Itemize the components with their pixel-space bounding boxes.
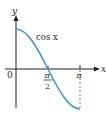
curve-label: cos x <box>36 32 58 42</box>
tick-label-half-pi-numerator: π <box>44 71 51 80</box>
x-axis-label: x <box>101 64 106 74</box>
tick-label-pi: π <box>76 71 83 80</box>
x-axis-arrow-icon <box>94 67 100 72</box>
tick-label-half-pi-denominator: 2 <box>45 82 50 91</box>
y-axis-label: y <box>11 6 18 16</box>
origin-label: 0 <box>7 70 13 80</box>
cosine-graph: y x 0 cos x π 2 π <box>0 0 106 116</box>
